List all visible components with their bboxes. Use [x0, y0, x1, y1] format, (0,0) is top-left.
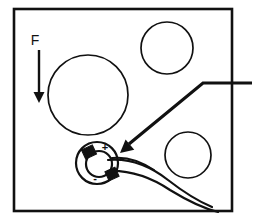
negative-polarity-label: -	[93, 172, 97, 184]
force-label: F	[31, 32, 40, 48]
positive-polarity-label: +	[102, 141, 108, 153]
figure-canvas: F + -	[0, 0, 255, 220]
technical-diagram: F + -	[0, 0, 255, 220]
